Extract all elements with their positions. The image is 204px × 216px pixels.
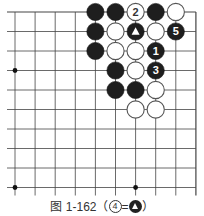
- white-stone: [127, 101, 144, 118]
- move-number: 5: [173, 25, 179, 37]
- white-stone: [107, 23, 124, 40]
- black-stone: [87, 3, 104, 20]
- black-stone: [107, 62, 124, 79]
- caption-prefix: 图 1-162（: [50, 200, 108, 214]
- black-stone: [87, 23, 104, 40]
- black-stone: [127, 23, 144, 40]
- go-board: 2513: [0, 0, 204, 200]
- black-stone: 1: [147, 42, 164, 59]
- black-stone: [87, 42, 104, 59]
- star-point: [133, 185, 138, 190]
- black-stone: [147, 3, 164, 20]
- caption-suffix: ）: [142, 200, 154, 214]
- caption-equals: =: [122, 200, 129, 214]
- star-point: [13, 185, 18, 190]
- grid-lines: [7, 12, 196, 196]
- white-stone: [167, 3, 184, 20]
- black-stone: [107, 81, 124, 98]
- white-stone: [107, 42, 124, 59]
- white-stone: [147, 81, 164, 98]
- circled-number-marker: 4: [109, 200, 122, 213]
- white-stone: [147, 23, 164, 40]
- white-stone: 2: [127, 3, 144, 20]
- black-stone: [107, 3, 124, 20]
- white-stone: [127, 42, 144, 59]
- black-stone: [127, 81, 144, 98]
- black-stone: 3: [147, 62, 164, 79]
- black-triangle-stone-icon: [129, 200, 142, 213]
- star-point: [13, 68, 18, 73]
- white-stone: [147, 101, 164, 118]
- white-stone: [127, 62, 144, 79]
- move-number: 2: [133, 6, 139, 18]
- black-stone: 5: [167, 23, 184, 40]
- figure-caption: 图 1-162（4=）: [0, 199, 204, 214]
- move-number: 1: [153, 45, 159, 57]
- move-number: 3: [153, 64, 159, 76]
